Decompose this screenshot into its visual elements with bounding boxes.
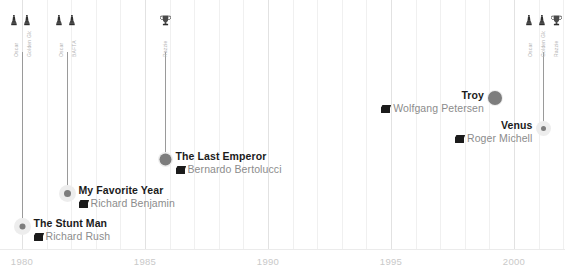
x-axis-line <box>0 249 565 250</box>
data-point[interactable] <box>158 152 173 167</box>
trophy-cup-icon: Razzie <box>160 15 171 57</box>
data-point[interactable] <box>14 218 31 235</box>
award-caption: Oscar <box>527 31 533 57</box>
gridline-minor <box>440 0 441 249</box>
gridline-minor <box>342 0 343 249</box>
gridline-minor <box>366 0 367 249</box>
gridline-minor <box>47 0 48 249</box>
gridline-minor <box>219 0 220 249</box>
award-icon-group: OscarGolden GlobeRazzie <box>525 15 562 57</box>
gridline-minor <box>96 0 97 249</box>
lollipop-stem <box>67 52 68 193</box>
timeline-scatter-chart: OscarGolden GlobeOscarBAFTARazzieOscarGo… <box>0 0 565 278</box>
oscar-statuette-icon: Oscar <box>525 15 536 57</box>
data-point-core <box>541 126 546 131</box>
point-director-row: Bernardo Bertolucci <box>176 163 282 175</box>
data-point[interactable] <box>59 185 76 202</box>
trophy-cup-icon: Razzie <box>551 15 562 57</box>
x-axis-tick-label: 1985 <box>134 256 156 267</box>
award-caption: BAFTA <box>71 31 77 57</box>
oscar-statuette-icon: Golden Globe <box>23 15 34 57</box>
award-icon-group: OscarBAFTA <box>55 15 79 57</box>
award-caption: Razzie <box>162 31 168 57</box>
point-title: Venus <box>455 119 533 131</box>
data-point[interactable] <box>536 121 551 136</box>
point-label: The Last EmperorBernardo Bertolucci <box>176 150 282 176</box>
point-director-row: Richard Rush <box>34 230 111 242</box>
point-director: Roger Michell <box>467 132 533 144</box>
point-label: VenusRoger Michell <box>455 119 533 145</box>
point-title: My Favorite Year <box>79 184 175 196</box>
gridline-minor <box>293 0 294 249</box>
point-label: My Favorite YearRichard Benjamin <box>79 184 175 210</box>
award-caption: Oscar <box>13 31 19 57</box>
point-label: TroyWolfgang Petersen <box>381 89 484 115</box>
gridline-major <box>391 0 392 249</box>
point-director-row: Roger Michell <box>455 132 533 144</box>
point-label: The Stunt ManRichard Rush <box>34 217 111 243</box>
gridline-minor <box>563 0 564 249</box>
x-axis-tick-label: 1990 <box>257 256 279 267</box>
oscar-statuette-icon: Golden Globe <box>538 15 549 57</box>
gridline-minor <box>243 0 244 249</box>
point-director-row: Richard Benjamin <box>79 197 175 209</box>
data-point-core <box>488 91 502 105</box>
data-point-core <box>159 153 171 165</box>
clapperboard-icon <box>79 200 88 208</box>
point-director: Richard Benjamin <box>91 197 175 209</box>
lollipop-stem <box>165 52 166 159</box>
clapperboard-icon <box>34 233 43 241</box>
x-axis-tick-label: 1995 <box>380 256 402 267</box>
point-director: Bernardo Bertolucci <box>188 163 282 175</box>
gridline-minor <box>194 0 195 249</box>
point-director: Richard Rush <box>46 230 111 242</box>
data-point[interactable] <box>487 90 503 106</box>
data-point-core <box>64 190 71 197</box>
clapperboard-icon <box>381 105 390 113</box>
clapperboard-icon <box>455 135 464 143</box>
point-director-row: Wolfgang Petersen <box>381 102 484 114</box>
gridline-minor <box>416 0 417 249</box>
lollipop-stem <box>543 52 544 128</box>
oscar-statuette-icon: BAFTA <box>68 15 79 57</box>
award-caption: Razzie <box>553 31 559 57</box>
data-point-core <box>19 223 25 229</box>
clapperboard-icon <box>176 166 185 174</box>
award-caption: Golden Globe <box>26 31 32 57</box>
point-title: The Stunt Man <box>34 217 111 229</box>
oscar-statuette-icon: Oscar <box>10 15 21 57</box>
x-axis-tick-label: 2000 <box>503 256 525 267</box>
gridline-minor <box>317 0 318 249</box>
award-caption: Oscar <box>58 31 64 57</box>
award-icon-group: OscarGolden Globe <box>10 15 34 57</box>
award-caption: Golden Globe <box>540 31 546 57</box>
gridline-major <box>268 0 269 249</box>
award-icon-group: Razzie <box>160 15 171 57</box>
x-axis-tick-label: 1980 <box>11 256 33 267</box>
gridline-major <box>145 0 146 249</box>
point-director: Wolfgang Petersen <box>393 102 484 114</box>
gridline-minor <box>120 0 121 249</box>
oscar-statuette-icon: Oscar <box>55 15 66 57</box>
lollipop-stem <box>22 52 23 226</box>
point-title: Troy <box>381 89 484 101</box>
point-title: The Last Emperor <box>176 150 282 162</box>
